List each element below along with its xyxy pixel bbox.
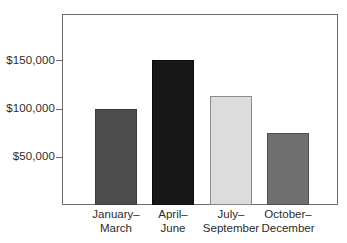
y-axis-tick-100000 <box>56 109 63 110</box>
bar-january-march <box>95 109 137 205</box>
x-axis-label-line-1: October– <box>248 208 328 222</box>
bar-july-september <box>210 96 252 205</box>
y-axis-tick-150000 <box>56 60 63 61</box>
y-axis-label-150000: $150,000 <box>6 54 55 66</box>
y-axis-label-100000: $100,000 <box>6 102 55 114</box>
y-axis-tick-50000 <box>56 157 63 158</box>
x-axis-label-october-december: October– December <box>248 208 328 235</box>
y-axis-label-50000: $50,000 <box>13 150 55 162</box>
x-axis-label-line-2: December <box>248 222 328 236</box>
bar-april-june <box>152 60 194 205</box>
bar-october-december <box>267 133 309 205</box>
bar-chart: $150,000 $100,000 $50,000 January– March… <box>0 0 347 243</box>
